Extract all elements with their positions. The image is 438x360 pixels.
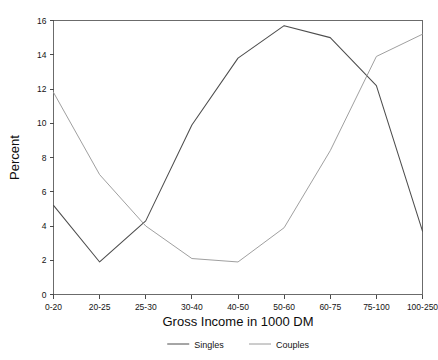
y-tick-label: 4 [42,221,47,231]
x-tick-label: 20-25 [89,302,111,312]
y-axis-title: Percent [7,135,22,180]
legend-label-singles: Singles [194,340,224,350]
y-tick-label: 12 [37,84,47,94]
chart-figure: 02468101214160-2020-2525-3030-4040-5050-… [0,0,438,360]
y-tick-label: 2 [42,255,47,265]
y-tick-label: 0 [42,290,47,300]
x-tick-label: 25-30 [135,302,157,312]
x-tick-label: 40-50 [227,302,249,312]
x-tick-label: 50-60 [273,302,295,312]
x-tick-label: 75-100 [363,302,390,312]
x-tick-label: 0-20 [45,302,62,312]
x-tick-label: 100-250 [407,302,438,312]
series-line-singles [54,26,423,262]
x-tick-label: 30-40 [181,302,203,312]
series-line-couples [54,34,423,262]
y-tick-label: 14 [37,50,47,60]
y-tick-label: 6 [42,187,47,197]
x-tick-label: 60-75 [319,302,341,312]
x-axis-title: Gross Income in 1000 DM [162,314,313,329]
y-tick-label: 10 [37,118,47,128]
y-tick-label: 16 [37,16,47,26]
y-tick-label: 8 [42,153,47,163]
legend-label-couples: Couples [276,340,310,350]
line-chart-canvas: 02468101214160-2020-2525-3030-4040-5050-… [0,0,438,360]
